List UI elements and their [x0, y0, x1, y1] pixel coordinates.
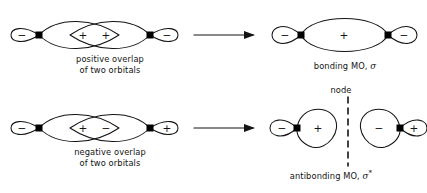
svg-text:−: − [102, 122, 111, 134]
svg-text:−: − [278, 122, 287, 134]
svg-text:+: + [79, 29, 88, 41]
svg-text:+: + [163, 122, 172, 134]
svg-text:+: + [79, 122, 88, 134]
negative-overlap-caption: negative overlapof two orbitals [26, 147, 194, 168]
svg-text:+: + [340, 29, 349, 41]
svg-text:−: − [18, 29, 27, 41]
negative-overlap-caption-line2: of two orbitals [80, 158, 141, 168]
svg-text:+: + [102, 29, 111, 41]
svg-text:+: + [314, 122, 323, 134]
positive-overlap-caption-line2: of two orbitals [80, 65, 141, 75]
svg-text:−: − [18, 122, 27, 134]
negative-overlap-caption-line1: negative overlap [74, 147, 146, 157]
node-label-text: node [330, 85, 351, 95]
bonding-mo-caption-text: bonding MO, [314, 61, 371, 71]
arrow-antibonding [194, 124, 255, 132]
svg-text:−: − [400, 29, 409, 41]
star-superscript: * [369, 169, 373, 177]
sigma-symbol: σ [370, 61, 376, 71]
svg-text:+: + [410, 122, 419, 134]
arrow-bonding [194, 31, 255, 39]
node-label: node [296, 85, 386, 96]
svg-text:−: − [163, 29, 172, 41]
positive-overlap-caption-line1: positive overlap [76, 54, 144, 64]
lobe-sign-labels: − + + − − + − − + − + − + − + [18, 29, 419, 134]
antibonding-mo-caption-text: antibonding MO, [290, 171, 363, 181]
svg-text:−: − [281, 29, 290, 41]
svg-text:−: − [375, 122, 384, 134]
positive-overlap-caption: positive overlapof two orbitals [26, 54, 194, 75]
bonding-mo-caption: bonding MO, σ [256, 61, 427, 72]
antibonding-mo-caption: antibonding MO, σ* [236, 168, 426, 181]
